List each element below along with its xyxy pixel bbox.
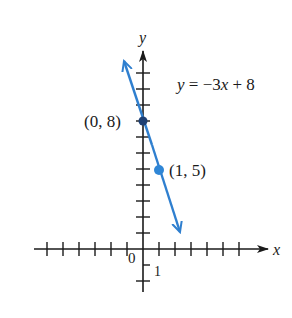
point-1-5 [154, 165, 164, 175]
point-label-1-5: (1, 5) [169, 161, 206, 180]
equation-label: y = −3x + 8 [175, 75, 255, 94]
origin-label: 0 [128, 250, 136, 266]
x-axis [34, 242, 268, 256]
x-axis-label: x [272, 241, 280, 258]
linear-equation-graph: y x 0 1 (0, 8) (1, 5) y = −3x + 8 [0, 0, 292, 318]
point-label-0-8: (0, 8) [84, 112, 121, 131]
y-axis [136, 51, 150, 292]
unit-tick-label: 1 [154, 264, 161, 279]
y-axis-label: y [137, 29, 147, 47]
line-series [124, 61, 180, 232]
point-0-8 [139, 117, 148, 126]
